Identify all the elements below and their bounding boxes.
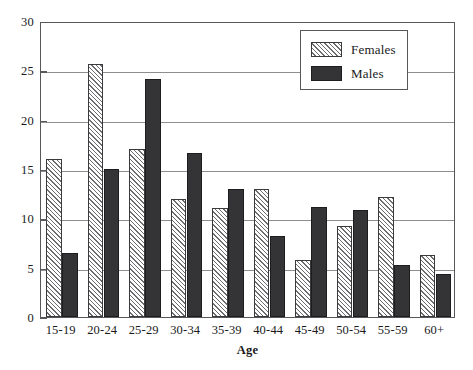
x-tick-label: 15-19 (40, 323, 82, 337)
x-tick-label: 25-29 (123, 323, 165, 337)
x-axis-title: Age (40, 343, 455, 358)
y-tick-label: 10 (4, 213, 34, 226)
legend-label-males: Males (351, 67, 384, 80)
y-tick-label: 25 (4, 65, 34, 78)
y-tick-label: 20 (4, 115, 34, 128)
y-tick-mark (40, 318, 47, 319)
bar-males-30-34 (187, 153, 203, 317)
x-axis: 15-1920-2425-2930-3435-3940-4445-4950-54… (40, 323, 455, 341)
y-tick-mark (40, 170, 47, 171)
bar-females-15-19 (46, 159, 62, 317)
bar-females-20-24 (88, 64, 104, 317)
y-tick-label: 15 (4, 164, 34, 177)
bar-females-35-39 (212, 208, 228, 317)
bar-males-50-54 (353, 210, 369, 317)
y-tick-mark (40, 269, 47, 270)
x-tick-label: 35-39 (206, 323, 248, 337)
y-tick-mark (40, 121, 47, 122)
legend: Females Males (300, 30, 408, 90)
y-tick-mark (40, 219, 47, 220)
x-tick-label: 30-34 (165, 323, 207, 337)
bar-males-20-24 (104, 169, 120, 317)
y-tick-label: 0 (4, 312, 34, 325)
legend-swatch-males (311, 66, 342, 81)
bar-females-25-29 (129, 149, 145, 317)
bar-females-55-59 (378, 197, 394, 317)
legend-label-females: Females (351, 43, 396, 56)
bar-females-30-34 (171, 199, 187, 317)
y-tick-label: 5 (4, 263, 34, 276)
x-tick-label: 45-49 (289, 323, 331, 337)
y-axis: 051015202530 (0, 22, 34, 318)
bar-males-15-19 (62, 253, 78, 317)
bar-males-40-44 (270, 236, 286, 317)
bar-females-40-44 (254, 189, 270, 317)
bar-chart: 051015202530 15-1920-2425-2930-3435-3940… (0, 0, 473, 370)
legend-item-females: Females (311, 40, 396, 58)
y-tick-mark (40, 22, 47, 23)
legend-item-males: Males (311, 64, 384, 82)
x-tick-label: 40-44 (248, 323, 290, 337)
y-tick-label: 30 (4, 16, 34, 29)
x-tick-label: 50-54 (331, 323, 373, 337)
bar-females-45-49 (295, 260, 311, 317)
bar-males-45-49 (311, 207, 327, 318)
bar-males-25-29 (145, 79, 161, 317)
bar-males-55-59 (394, 265, 410, 317)
bar-females-50-54 (337, 226, 353, 317)
bar-females-60+ (420, 255, 436, 317)
legend-swatch-females (311, 42, 342, 57)
x-tick-label: 20-24 (82, 323, 124, 337)
y-tick-mark (40, 71, 47, 72)
bar-males-60+ (436, 274, 452, 317)
x-tick-label: 60+ (414, 323, 456, 337)
x-tick-label: 55-59 (372, 323, 414, 337)
bar-males-35-39 (228, 189, 244, 317)
